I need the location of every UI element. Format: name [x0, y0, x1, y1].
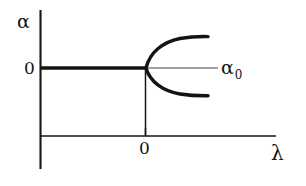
x-axis-label: λ: [271, 143, 284, 163]
asymptote-label-subscript: 0: [234, 68, 243, 82]
asymptote-label-base: α: [221, 56, 234, 78]
bifurcation-diagram-figure: α 0 0 λ α0: [0, 0, 306, 186]
x-axis-origin-tick-label: 0: [139, 140, 150, 157]
lower-branch-curve: [146, 68, 208, 96]
upper-branch-curve: [146, 37, 208, 68]
y-axis-label: α: [17, 12, 30, 31]
y-axis-origin-tick-label: 0: [24, 60, 35, 77]
bifurcation-plot-svg: [0, 0, 306, 186]
asymptote-label: α0: [221, 58, 242, 81]
